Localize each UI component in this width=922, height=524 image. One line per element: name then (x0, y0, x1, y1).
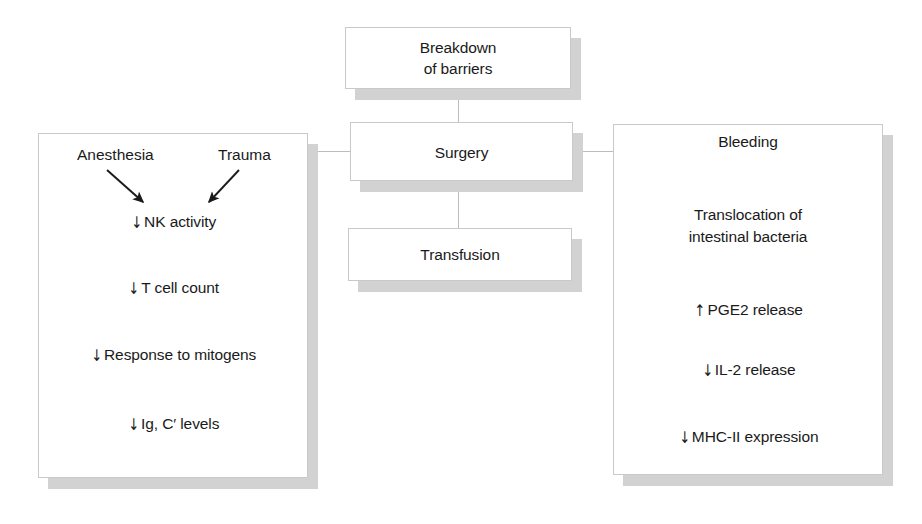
node-transfusion: Transfusion (348, 228, 572, 281)
node-breakdown-line1: Breakdown (420, 39, 497, 56)
right-panel-item-mhc-ii-expression-label: MHC-II expression (692, 428, 819, 445)
down-arrow-icon: ↓ (128, 279, 139, 299)
down-arrow-icon: ↓ (702, 361, 713, 381)
left-panel-head-trauma: Trauma (218, 145, 271, 165)
down-arrow-icon: ↓ (128, 415, 139, 435)
up-arrow-icon: ↑ (694, 301, 705, 321)
converging-arrows-icon (39, 164, 309, 216)
left-panel-item-response-to-mitogens-label: Response to mitogens (104, 346, 256, 363)
diagram-canvas: Breakdown of barriers Surgery Transfusio… (0, 0, 922, 524)
node-surgery: Surgery (350, 122, 573, 181)
right-panel-heading-bleeding: Bleeding (614, 132, 882, 152)
right-panel-subheading-line1: Translocation of (694, 206, 802, 223)
node-breakdown-line2: of barriers (424, 60, 493, 77)
right-panel-subheading-translocation: Translocation of intestinal bacteria (614, 204, 882, 248)
left-panel-item-ig-c-levels: ↓Ig, C′ levels (39, 414, 307, 434)
node-transfusion-label: Transfusion (349, 244, 571, 265)
panel-bleeding-effects: Bleeding Translocation of intestinal bac… (613, 124, 883, 475)
right-panel-item-pge2-release: ↑PGE2 release (614, 300, 882, 320)
right-panel-item-pge2-release-label: PGE2 release (708, 301, 803, 318)
node-breakdown-of-barriers: Breakdown of barriers (345, 27, 571, 89)
left-panel-item-t-cell-count-label: T cell count (141, 279, 219, 296)
down-arrow-icon: ↓ (131, 213, 142, 233)
down-arrow-icon: ↓ (679, 428, 690, 448)
right-panel-item-il2-release-label: IL-2 release (715, 361, 796, 378)
left-panel-item-response-to-mitogens: ↓Response to mitogens (39, 345, 307, 365)
node-surgery-label: Surgery (351, 142, 572, 163)
left-panel-item-t-cell-count: ↓T cell count (39, 278, 307, 298)
down-arrow-icon: ↓ (91, 346, 102, 366)
connector-surgery-to-transfusion (458, 180, 459, 229)
left-panel-item-ig-c-levels-label: Ig, C′ levels (141, 415, 219, 432)
node-breakdown-label: Breakdown of barriers (346, 37, 570, 79)
right-panel-item-il2-release: ↓IL-2 release (614, 360, 882, 380)
left-panel-head-anesthesia: Anesthesia (77, 145, 154, 165)
connector-breakdown-to-surgery (458, 88, 459, 123)
right-panel-item-mhc-ii-expression: ↓MHC-II expression (614, 427, 882, 447)
right-panel-subheading-line2: intestinal bacteria (689, 228, 808, 245)
connector-surgery-to-right-panel (572, 151, 614, 152)
panel-anesthesia-trauma-effects: Anesthesia Trauma ↓NK activity ↓T cell c… (38, 133, 308, 478)
connector-left-panel-to-surgery (307, 151, 351, 152)
